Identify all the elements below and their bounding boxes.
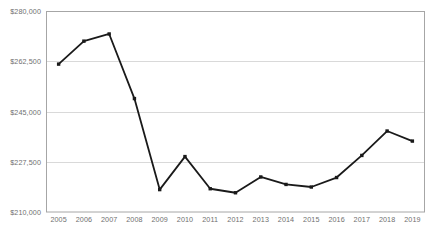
line-chart: $210,000$227,500$245,000$262,500$280,000… (0, 0, 433, 231)
x-axis-tick-labels: 2005200620072008200920102011201220132014… (0, 0, 433, 231)
x-axis-tick-label: 2015 (303, 215, 319, 224)
x-axis-tick-label: 2017 (354, 215, 370, 224)
x-axis-tick-label: 2008 (126, 215, 142, 224)
x-axis-tick-label: 2010 (177, 215, 193, 224)
x-axis-tick-label: 2006 (76, 215, 92, 224)
x-axis-tick-label: 2013 (253, 215, 269, 224)
x-axis-tick-label: 2011 (202, 215, 218, 224)
x-axis-tick-label: 2019 (404, 215, 420, 224)
x-axis-tick-label: 2016 (328, 215, 344, 224)
x-axis-tick-label: 2009 (151, 215, 167, 224)
x-axis-tick-label: 2007 (101, 215, 117, 224)
x-axis-tick-label: 2014 (278, 215, 294, 224)
x-axis-tick-label: 2005 (50, 215, 66, 224)
x-axis-tick-label: 2018 (379, 215, 395, 224)
x-axis-tick-label: 2012 (227, 215, 243, 224)
